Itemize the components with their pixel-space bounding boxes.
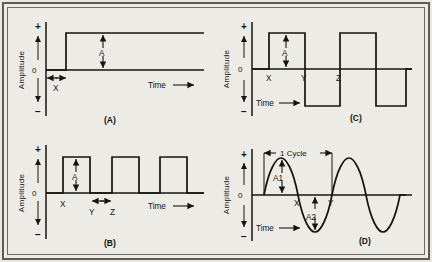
panel-id-b: (B) [104, 238, 116, 248]
cycle-label: 1 Cycle [280, 149, 307, 158]
pulse-train-trace [46, 157, 204, 193]
panel-step-waveform: + 0 − Amplitude A X Time (A) [8, 8, 216, 131]
amplitude-marker-b: A [72, 173, 78, 182]
minus-sign-b: − [35, 229, 41, 240]
amplitude-marker-a2: A2 [306, 213, 316, 222]
zero-label-b: 0 [32, 189, 37, 198]
amplitude-marker-a: A [99, 49, 105, 58]
amplitude-marker-a1: A1 [273, 174, 283, 183]
plus-sign-c: + [241, 21, 247, 32]
amplitude-marker-c: A [282, 49, 288, 58]
time-marker-y-c: Y [301, 74, 307, 83]
minus-sign-a: − [35, 106, 41, 117]
time-marker-y-d: Y [328, 199, 334, 208]
amplitude-axis-label-b: Amplitude [17, 174, 26, 213]
time-axis-label-b: Time [148, 202, 166, 211]
time-marker-x-b: X [60, 200, 66, 209]
panel-id-c: (C) [350, 113, 362, 123]
panel-id-d: (D) [359, 236, 371, 246]
time-marker-x-c: X [266, 74, 272, 83]
amplitude-axis-label-d: Amplitude [222, 176, 231, 215]
plus-sign-a: + [35, 21, 41, 32]
time-marker-x-d: X [294, 199, 300, 208]
zero-label-a: 0 [32, 66, 37, 75]
minus-sign-d: − [241, 231, 247, 242]
time-marker-x-a: X [53, 84, 59, 93]
plus-sign-b: + [35, 144, 41, 155]
panel-pulse-train: + 0 − Amplitude A X Y Z Time (B) [8, 131, 216, 254]
amplitude-axis-label-c: Amplitude [222, 50, 231, 89]
panel-sine-wave: + 0 − Amplitude 1 Cycle A1 A2 X Y [216, 131, 424, 254]
time-axis-label-c: Time [256, 99, 274, 108]
step-waveform-trace [46, 33, 204, 70]
time-marker-z-c: Z [336, 74, 341, 83]
time-marker-z-b: Z [110, 208, 115, 217]
waveform-figure: + 0 − Amplitude A X Time (A) [0, 0, 432, 262]
time-axis-label-d: Time [256, 224, 274, 233]
zero-label-c: 0 [238, 65, 243, 74]
time-marker-y-b: Y [89, 208, 95, 217]
minus-sign-c: − [241, 106, 247, 117]
amplitude-axis-label-a: Amplitude [17, 51, 26, 90]
time-axis-label-a: Time [148, 81, 166, 90]
panel-id-a: (A) [104, 115, 116, 125]
plus-sign-d: + [241, 149, 247, 160]
panel-square-wave: + 0 − Amplitude A X Y Z Time (C) [216, 8, 424, 131]
zero-label-d: 0 [238, 191, 243, 200]
